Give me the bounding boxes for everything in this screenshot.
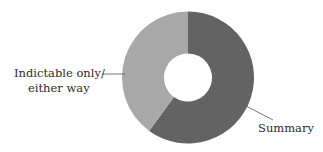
label-indictable-line2: either way: [28, 81, 90, 95]
leader-line-summary: [246, 106, 273, 120]
label-indictable-line1: Indictable only/: [14, 66, 105, 80]
donut: [122, 11, 254, 143]
label-summary: Summary: [258, 121, 314, 135]
donut-chart: Indictable only/ either way Summary: [0, 0, 323, 152]
